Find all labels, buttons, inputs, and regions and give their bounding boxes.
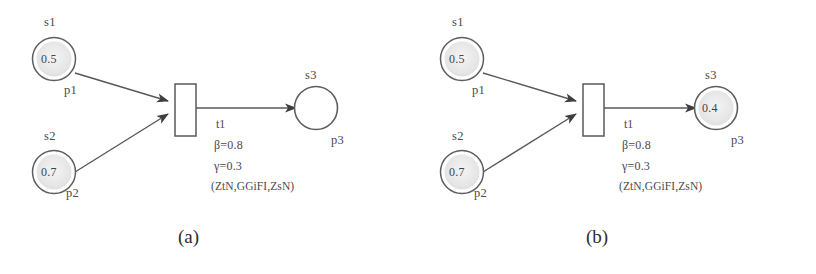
- panel-caption-a: (a): [178, 226, 199, 248]
- arc-p2-t1: [75, 114, 168, 172]
- transition-gamma: γ=0.3: [622, 160, 650, 172]
- place-name-s1: s1: [452, 16, 464, 29]
- place-token-p1: 0.5: [449, 53, 465, 65]
- place-name-s2: s2: [452, 130, 464, 143]
- arc-p1-t1: [75, 73, 168, 101]
- transition-id-t1: t1: [624, 118, 633, 130]
- transition-tuple: (ZtN,GGiFI,ZsN): [211, 181, 294, 193]
- place-id-p2: p2: [474, 187, 487, 200]
- transition-id-t1: t1: [216, 118, 225, 130]
- place-token-p1: 0.5: [41, 53, 57, 65]
- panel-b-net-graphic: [408, 0, 816, 274]
- place-name-s1: s1: [44, 16, 56, 29]
- place-token-p2: 0.7: [41, 166, 57, 178]
- place-name-s3: s3: [305, 69, 317, 82]
- place-name-s3: s3: [705, 69, 717, 82]
- place-id-p3: p3: [731, 134, 744, 147]
- place-p3: [295, 87, 338, 130]
- petri-net-figure: s1 0.5 p1 s2 0.7 p2 s3 p3 t1 β=0.8 γ=0.3…: [0, 0, 816, 274]
- panel-b: s1 0.5 p1 s2 0.7 p2 s3 0.4 p3 t1 β=0.8 γ…: [408, 0, 816, 274]
- transition-t1: [175, 84, 196, 136]
- transition-beta: β=0.8: [214, 139, 243, 151]
- arc-p1-t1: [483, 73, 576, 101]
- transition-tuple: (ZtN,GGiFI,ZsN): [619, 181, 702, 193]
- place-id-p1: p1: [64, 84, 77, 97]
- panel-caption-b: (b): [586, 226, 608, 248]
- transition-t1: [583, 84, 604, 136]
- place-id-p1: p1: [472, 84, 485, 97]
- arc-p2-t1: [483, 114, 576, 172]
- place-name-s2: s2: [44, 130, 56, 143]
- panel-a-net-graphic: [0, 0, 408, 274]
- place-token-p2: 0.7: [449, 166, 465, 178]
- transition-gamma: γ=0.3: [214, 160, 242, 172]
- place-token-p3: 0.4: [702, 102, 718, 114]
- transition-beta: β=0.8: [622, 139, 651, 151]
- place-id-p2: p2: [66, 187, 79, 200]
- place-id-p3: p3: [331, 134, 344, 147]
- panel-a: s1 0.5 p1 s2 0.7 p2 s3 p3 t1 β=0.8 γ=0.3…: [0, 0, 408, 274]
